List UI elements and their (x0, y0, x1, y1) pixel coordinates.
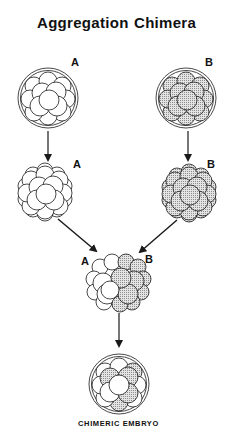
caption-chimeric-embryo: CHIMERIC EMBRYO (0, 419, 231, 428)
embryo-b-with-zona (156, 68, 216, 128)
diagram-canvas (0, 0, 231, 441)
label-a-row1: A (71, 56, 79, 68)
arrow-a-to-aggregate (58, 219, 96, 251)
label-a-row2: A (73, 158, 81, 170)
arrow-b-to-aggregate (140, 220, 177, 252)
label-a-merge: A (81, 255, 89, 267)
label-b-merge: B (145, 253, 153, 265)
embryo-b-denuded (162, 164, 216, 222)
label-b-row2: B (207, 158, 215, 170)
embryo-a-with-zona (18, 68, 78, 128)
aggregated-embryos (86, 254, 151, 312)
embryo-a-denuded (18, 163, 72, 221)
label-b-row1: B (205, 56, 213, 68)
chimeric-embryo (89, 354, 149, 414)
